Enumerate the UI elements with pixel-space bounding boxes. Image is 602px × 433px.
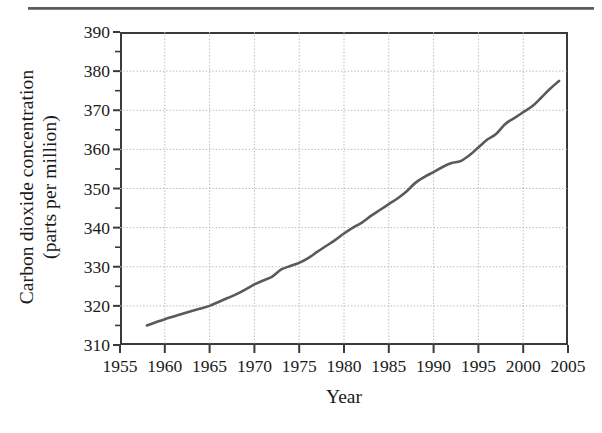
y-tick-label-330: 330: [64, 256, 110, 277]
y-tick-label-350: 350: [64, 178, 110, 199]
x-tick-label-1965: 1965: [192, 356, 227, 377]
header-divider-rule: [28, 7, 594, 10]
y-tick-label-380: 380: [64, 61, 110, 82]
y-axis-title-line1: Carbon dioxide concentration: [15, 70, 38, 305]
y-axis-title: Carbon dioxide concentration (parts per …: [8, 22, 68, 352]
x-tick-label-1985: 1985: [371, 356, 406, 377]
y-tick-label-310: 310: [64, 335, 110, 356]
y-tick-label-320: 320: [64, 295, 110, 316]
x-tick-label-1980: 1980: [327, 356, 362, 377]
x-axis-title: Year: [120, 386, 568, 408]
x-tick-label-1995: 1995: [461, 356, 496, 377]
x-tick-label-2000: 2000: [506, 356, 541, 377]
data-series-layer: [120, 32, 568, 345]
x-tick-label-1990: 1990: [416, 356, 451, 377]
x-tick-label-2005: 2005: [551, 356, 586, 377]
y-tick-label-390: 390: [64, 22, 110, 43]
co2-concentration-figure: Carbon dioxide concentration (parts per …: [0, 0, 602, 433]
y-tick-label-360: 360: [64, 139, 110, 160]
x-tick-label-1960: 1960: [147, 356, 182, 377]
plot-area: 310320330340350360370380390 195519601965…: [120, 32, 568, 345]
x-tick-label-1975: 1975: [282, 356, 317, 377]
y-tick-label-370: 370: [64, 100, 110, 121]
x-axis-tick-labels: 1955196019651970197519801985199019952000…: [120, 345, 568, 375]
x-tick-label-1955: 1955: [103, 356, 138, 377]
y-tick-label-340: 340: [64, 217, 110, 238]
x-tick-label-1970: 1970: [237, 356, 272, 377]
y-axis-title-line2: (parts per million): [38, 115, 61, 259]
